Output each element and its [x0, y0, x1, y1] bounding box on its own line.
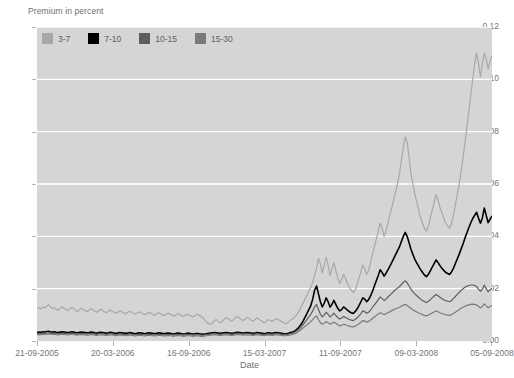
series-lines: [37, 27, 492, 341]
x-tick-mark: [416, 341, 417, 346]
legend-label: 10-15: [155, 34, 177, 44]
legend-swatch-icon: [195, 33, 206, 44]
legend-swatch-icon: [42, 33, 53, 44]
x-tick-mark: [37, 341, 38, 346]
x-tick-mark: [189, 341, 190, 346]
y-axis-title: Premium in percent: [28, 6, 104, 16]
x-tick-mark: [340, 341, 341, 346]
x-tick-label: 15-03-2007: [243, 349, 286, 358]
legend-entry-7-10[interactable]: 7-10: [88, 33, 121, 44]
legend-swatch-icon: [139, 33, 150, 44]
series-line-3-7: [37, 53, 492, 324]
y-tick-mark: [32, 236, 36, 237]
legend-label: 15-30: [211, 34, 233, 44]
x-tick-label: 11-09-2007: [319, 349, 362, 358]
y-tick-mark: [32, 341, 36, 342]
y-tick-mark: [32, 27, 36, 28]
chart-legend: 3-77-1010-1515-30: [42, 33, 251, 44]
legend-entry-10-15[interactable]: 10-15: [139, 33, 177, 44]
series-line-15-30: [37, 304, 492, 336]
plot-area: [37, 27, 492, 341]
legend-entry-15-30[interactable]: 15-30: [195, 33, 233, 44]
legend-swatch-icon: [88, 33, 99, 44]
x-tick-mark: [265, 341, 266, 346]
y-tick-mark: [32, 79, 36, 80]
x-tick-label: 09-03-2008: [394, 349, 437, 358]
y-tick-mark: [32, 289, 36, 290]
x-tick-mark: [491, 341, 492, 346]
x-axis-title: Date: [0, 360, 499, 370]
legend-label: 7-10: [104, 34, 121, 44]
x-tick-label: 16-09-2006: [167, 349, 210, 358]
x-tick-label: 20-03-2006: [91, 349, 134, 358]
x-tick-mark: [113, 341, 114, 346]
x-tick-label: 05-09-2008: [470, 349, 513, 358]
x-tick-label: 21-09-2005: [15, 349, 58, 358]
y-tick-mark: [32, 132, 36, 133]
legend-entry-3-7[interactable]: 3-7: [42, 33, 70, 44]
legend-label: 3-7: [58, 34, 70, 44]
y-tick-mark: [32, 184, 36, 185]
